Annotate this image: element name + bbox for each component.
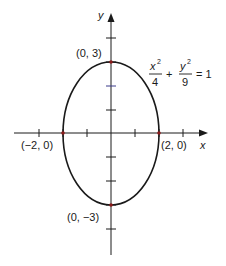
label-top-point: (0, 3): [76, 47, 102, 59]
eq-plus: +: [166, 68, 172, 80]
eq-equals-one: = 1: [196, 68, 212, 80]
label-left-point: (−2, 0): [21, 139, 53, 151]
eq-term2-denominator: 9: [182, 76, 188, 88]
eq-term1-denominator: 4: [152, 76, 158, 88]
eq-term2-exponent: 2: [187, 58, 191, 65]
point-bottom: [109, 203, 113, 207]
ellipse-diagram: y x (0, 3) (0, −3) (−2, 0) (2, 0) x 2 4 …: [0, 0, 226, 266]
x-axis-label: x: [199, 139, 206, 151]
ellipse-equation: x 2 4 + y 2 9 = 1: [149, 58, 212, 88]
y-axis-label: y: [97, 9, 105, 21]
eq-term1-numerator: x: [149, 60, 156, 72]
point-top: [109, 60, 113, 64]
eq-term1-exponent: 2: [157, 58, 161, 65]
y-axis-arrow-icon: [108, 13, 115, 22]
point-left: [61, 131, 65, 135]
y-axis: [108, 13, 115, 255]
eq-term2-numerator: y: [179, 60, 187, 72]
x-axis-arrow-icon: [199, 130, 208, 137]
label-right-point: (2, 0): [161, 139, 187, 151]
point-right: [157, 131, 161, 135]
label-bottom-point: (0, −3): [67, 211, 99, 223]
